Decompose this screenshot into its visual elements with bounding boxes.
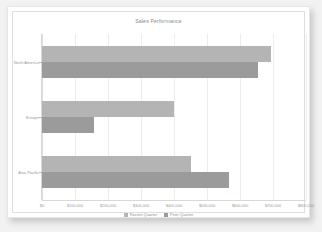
bar-groups (42, 34, 306, 200)
gridline (306, 34, 307, 200)
bar (42, 117, 94, 133)
legend-label: Prior Quarter (170, 212, 193, 217)
x-tick-label: $300,000 (133, 203, 149, 208)
screenshot-root: Sales Performance North AmericaEuropeAsi… (0, 0, 322, 232)
bar (42, 46, 271, 62)
x-tick-label: $400,000 (166, 203, 182, 208)
bar-group (42, 46, 306, 78)
x-tick-label: $100,000 (67, 203, 83, 208)
plot-area (42, 34, 306, 200)
x-tick-label: $500,000 (199, 203, 215, 208)
legend-swatch (164, 213, 168, 217)
y-axis-label: North America (14, 59, 39, 64)
chart-title: Sales Performance (13, 18, 304, 24)
y-axis-label: Asia Pacific (18, 170, 39, 175)
x-tick-label: $800,000 (298, 203, 314, 208)
x-tick-label: $600,000 (232, 203, 248, 208)
y-axis-label: Europe (26, 115, 39, 120)
x-tick-label: $200,000 (100, 203, 116, 208)
bar (42, 172, 229, 188)
x-axis: $0$100,000$200,000$300,000$400,000$500,0… (42, 200, 306, 201)
bar-group (42, 156, 306, 188)
legend-item[interactable]: Prior Quarter (164, 212, 193, 217)
chart-window: Sales Performance North AmericaEuropeAsi… (7, 6, 310, 218)
bar (42, 101, 174, 117)
y-tick (39, 117, 42, 118)
chart-legend: Recent QuarterPrior Quarter (13, 212, 304, 217)
y-axis: North AmericaEuropeAsia Pacific (41, 34, 42, 200)
legend-item[interactable]: Recent Quarter (124, 212, 157, 217)
bar-group (42, 101, 306, 133)
x-tick-label: $0 (40, 203, 44, 208)
legend-swatch (124, 213, 128, 217)
x-tick-label: $700,000 (265, 203, 281, 208)
legend-label: Recent Quarter (130, 212, 157, 217)
bar (42, 62, 258, 78)
bar (42, 156, 191, 172)
y-tick (39, 62, 42, 63)
chart-canvas: Sales Performance North AmericaEuropeAsi… (12, 11, 305, 213)
y-tick (39, 172, 42, 173)
